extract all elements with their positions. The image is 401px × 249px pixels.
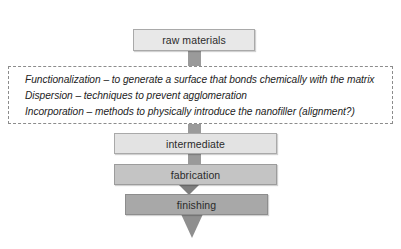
process-box-finishing-label: finishing — [177, 199, 216, 211]
diagram-canvas: raw materials Functionalization – to gen… — [0, 0, 401, 249]
process-box-fabrication-label: fabrication — [171, 169, 221, 181]
connector-raw-to-note — [188, 50, 201, 67]
process-box-intermediate-label: intermediate — [166, 138, 225, 150]
note-panel-processing-steps: Functionalization – to generate a surfac… — [8, 66, 393, 124]
process-box-raw-materials-label: raw materials — [162, 34, 226, 46]
arrow-finishing-output-icon — [181, 214, 203, 238]
process-box-fabrication[interactable]: fabrication — [114, 164, 277, 185]
note-line-incorporation: Incorporation – methods to physically in… — [25, 104, 392, 120]
process-box-finishing[interactable]: finishing — [125, 194, 268, 215]
note-line-functionalization: Functionalization – to generate a surfac… — [25, 72, 392, 88]
process-box-raw-materials[interactable]: raw materials — [133, 29, 255, 51]
process-box-intermediate[interactable]: intermediate — [114, 133, 277, 154]
note-line-dispersion: Dispersion – techniques to prevent agglo… — [25, 88, 392, 104]
